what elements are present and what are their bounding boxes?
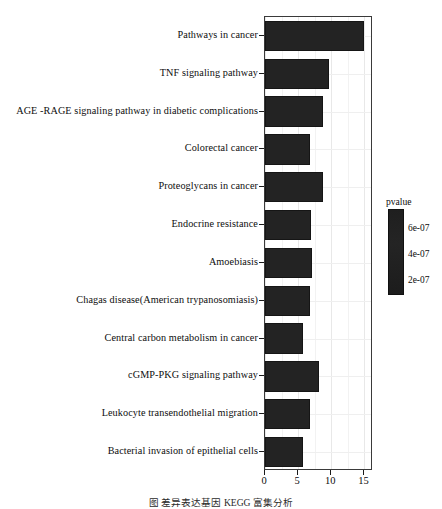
y-axis-label: cGMP-PKG signaling pathway [0, 369, 258, 380]
bar [265, 59, 329, 89]
y-axis-label: Chagas disease(American trypanosomiasis) [0, 294, 258, 305]
bar [265, 286, 310, 316]
bar [265, 437, 303, 467]
legend-colorbar [388, 209, 404, 295]
bar [265, 361, 319, 391]
legend-title: pvalue [386, 196, 412, 207]
bar [265, 96, 323, 126]
x-axis-tick-label: 10 [318, 475, 342, 486]
bar [265, 399, 310, 429]
legend-tick [404, 228, 407, 229]
legend-tick [404, 254, 407, 255]
x-axis: 051015 [264, 470, 372, 490]
legend-tick-label: 4e-07 [408, 249, 429, 259]
bar [265, 134, 310, 164]
bar [265, 210, 311, 240]
legend-tick-label: 6e-07 [408, 223, 429, 233]
x-axis-tick-label: 0 [252, 475, 276, 486]
y-axis-label: Endocrine resistance [0, 218, 258, 229]
plot-panel [264, 16, 372, 470]
bar [265, 21, 364, 51]
bar [265, 172, 323, 202]
legend-pvalue: pvalue 6e-074e-072e-07 [386, 196, 442, 306]
y-axis-label: TNF signaling pathway [0, 67, 258, 78]
legend-tick-label: 2e-07 [408, 275, 429, 285]
y-axis-label: Bacterial invasion of epithelial cells [0, 445, 258, 456]
y-axis-label: Colorectal cancer [0, 142, 258, 153]
gridline-major [331, 17, 332, 469]
y-axis-label: Amoebiasis [0, 256, 258, 267]
y-axis-label: Proteoglycans in cancer [0, 180, 258, 191]
y-axis-label: AGE -RAGE signaling pathway in diabetic … [0, 105, 258, 116]
x-axis-tick-label: 15 [351, 475, 375, 486]
bar [265, 323, 303, 353]
y-axis-label: Leukocyte transendothelial migration [0, 407, 258, 418]
bar [265, 248, 312, 278]
figure-caption: 图 差异表达基因 KEGG 富集分析 [0, 495, 442, 509]
legend-tick [404, 280, 407, 281]
y-axis-label: Central carbon metabolism in cancer [0, 332, 258, 343]
y-axis-label: Pathways in cancer [0, 29, 258, 40]
gridline-minor [348, 17, 349, 469]
gridline-major [364, 17, 365, 469]
x-axis-tick-label: 5 [285, 475, 309, 486]
y-axis-category-labels: Pathways in cancerTNF signaling pathwayA… [0, 16, 258, 470]
